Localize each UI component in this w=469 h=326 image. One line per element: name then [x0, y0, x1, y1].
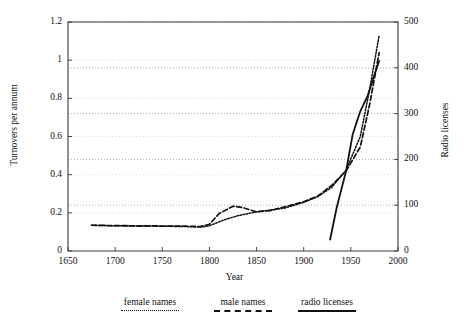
axis-ticks: [68, 22, 398, 251]
x-tick-4: 1850: [232, 256, 282, 266]
y-tick-left-6: 1.2: [0, 16, 62, 26]
chart-figure: 00.20.40.60.811.2 0100200300400500 16501…: [0, 0, 469, 326]
y-axis-right-title: Radio licenses: [440, 85, 450, 175]
series-line-male-names: [92, 53, 380, 227]
y-tick-right-3: 300: [404, 108, 444, 118]
x-tick-6: 1950: [326, 256, 376, 266]
x-tick-3: 1800: [184, 256, 234, 266]
y-tick-left-2: 0.4: [0, 169, 62, 179]
x-axis-title: Year: [0, 272, 469, 282]
series-lines: [92, 35, 380, 239]
legend-swatch-dotted: [121, 310, 179, 311]
x-tick-5: 1900: [279, 256, 329, 266]
y-tick-left-1: 0.2: [0, 207, 62, 217]
legend-swatch-solid: [298, 310, 356, 312]
series-line-female-names: [92, 35, 380, 227]
legend-item-female-names: female names: [110, 297, 190, 311]
y-tick-right-2: 200: [404, 153, 444, 163]
x-tick-7: 2000: [373, 256, 423, 266]
y-tick-left-5: 1: [0, 54, 62, 64]
legend-item-male-names: male names: [203, 297, 283, 312]
y-tick-right-4: 400: [404, 62, 444, 72]
y-tick-left-0: 0: [0, 245, 62, 255]
y-tick-right-1: 100: [404, 199, 444, 209]
legend-label-male-names: male names: [203, 297, 283, 307]
x-tick-2: 1750: [137, 256, 187, 266]
legend-label-female-names: female names: [110, 297, 190, 307]
x-tick-0: 1650: [43, 256, 93, 266]
legend-swatch-dashed: [214, 310, 272, 312]
legend-label-radio-licenses: radio licenses: [287, 297, 367, 307]
y-tick-right-0: 0: [404, 245, 444, 255]
y-axis-left-title: Turnovers per annum: [9, 80, 19, 170]
y-tick-right-5: 500: [404, 16, 444, 26]
axis-frame: [68, 22, 398, 251]
x-tick-1: 1700: [90, 256, 140, 266]
gridlines: [68, 22, 398, 213]
legend-item-radio-licenses: radio licenses: [287, 297, 367, 312]
